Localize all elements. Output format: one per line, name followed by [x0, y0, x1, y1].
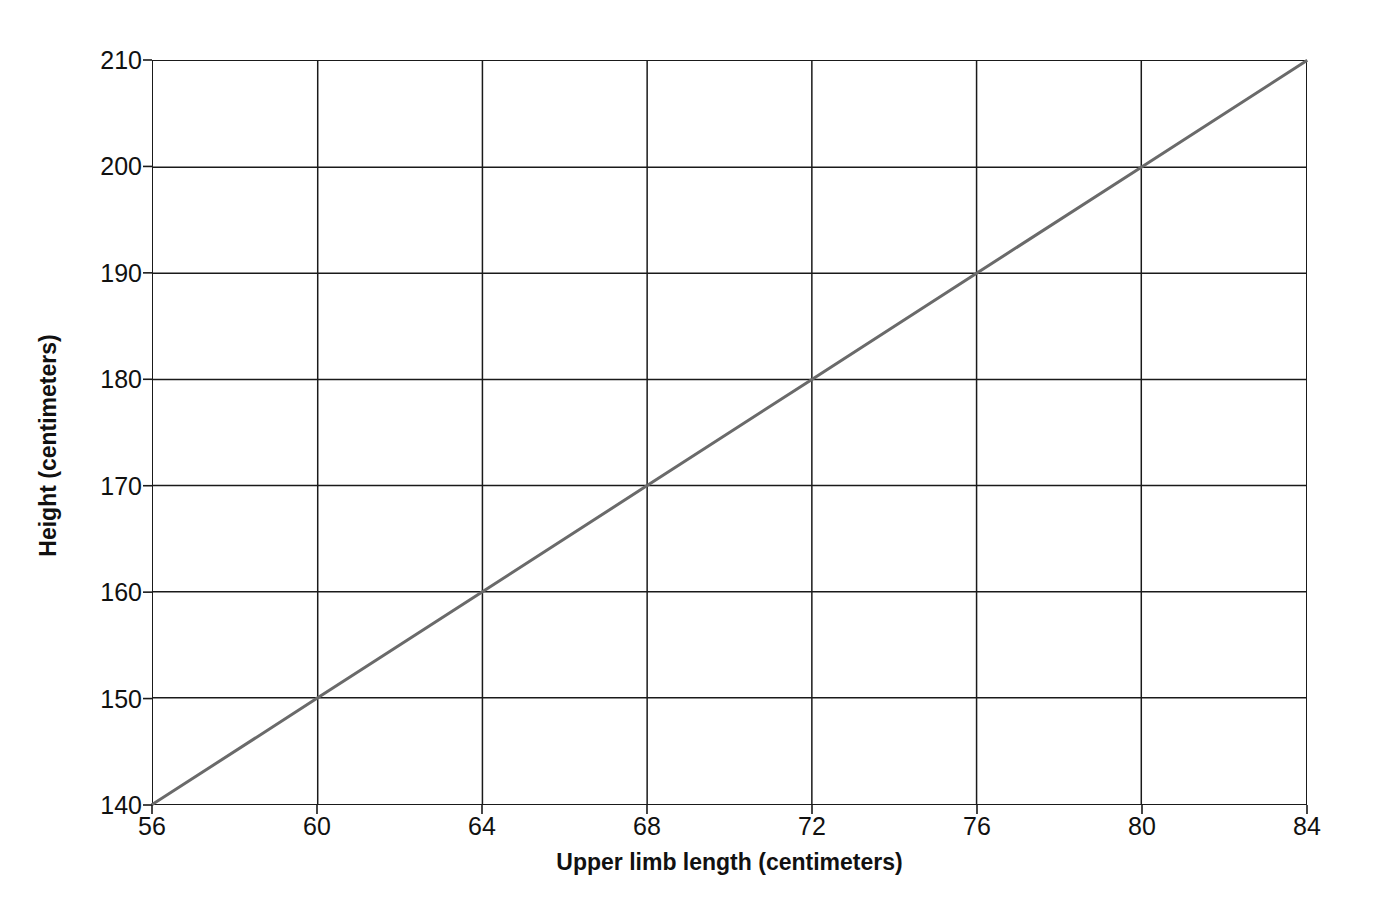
y-axis-title: Height (centimeters): [35, 334, 62, 556]
x-axis-title: Upper limb length (centimeters): [152, 849, 1307, 876]
x-tick-label: 76: [963, 812, 991, 841]
x-axis-tick-labels: 5660646872768084: [0, 0, 1378, 908]
chart-figure: 140150160170180190200210 566064687276808…: [0, 0, 1378, 908]
x-tick-label: 68: [633, 812, 661, 841]
x-tick-label: 56: [138, 812, 166, 841]
x-tick-label: 84: [1293, 812, 1321, 841]
x-tick-label: 60: [303, 812, 331, 841]
x-tick-label: 80: [1128, 812, 1156, 841]
x-tick-label: 64: [468, 812, 496, 841]
x-tick-label: 72: [798, 812, 826, 841]
